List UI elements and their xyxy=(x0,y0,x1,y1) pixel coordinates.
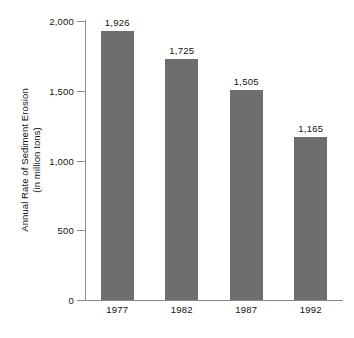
y-axis-tick-label: 1,000 xyxy=(0,155,74,166)
y-axis-tick xyxy=(77,91,85,92)
bar[interactable] xyxy=(101,31,134,300)
y-axis-tick-label: 1,500 xyxy=(0,85,74,96)
y-axis-tick xyxy=(77,230,85,231)
bar[interactable] xyxy=(230,90,263,300)
bar-value-label: 1,926 xyxy=(87,17,147,28)
y-axis-tick xyxy=(77,21,85,22)
x-axis-category-label: 1977 xyxy=(87,304,147,315)
x-axis-category-label: 1982 xyxy=(152,304,212,315)
x-axis-category-label: 1987 xyxy=(216,304,276,315)
x-axis-line xyxy=(85,300,343,301)
bar[interactable] xyxy=(165,59,198,300)
bar[interactable] xyxy=(294,137,327,300)
x-axis-category-label: 1992 xyxy=(281,304,341,315)
y-axis-tick-label: 0 xyxy=(0,295,74,306)
y-axis-line xyxy=(85,20,86,301)
y-axis-tick xyxy=(77,161,85,162)
bar-chart-figure: Annual Rate of Sediment Erosion (in mill… xyxy=(0,0,354,338)
y-axis-tick xyxy=(77,300,85,301)
bar-value-label: 1,165 xyxy=(281,123,341,134)
y-axis-tick-label: 500 xyxy=(0,225,74,236)
bar-value-label: 1,725 xyxy=(152,45,212,56)
bar-value-label: 1,505 xyxy=(216,76,276,87)
y-axis-tick-label: 2,000 xyxy=(0,16,74,27)
